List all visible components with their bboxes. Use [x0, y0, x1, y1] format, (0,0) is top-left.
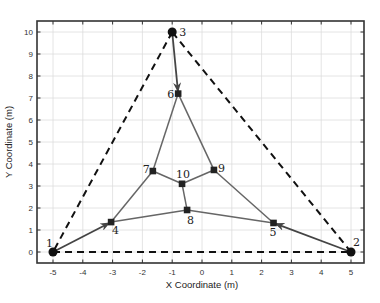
x-tick-label: 1	[230, 268, 235, 277]
x-tick-label: 5	[349, 268, 354, 277]
network-diagram: 12345678910 -5-4-3-2-1012345 01234567891…	[0, 0, 380, 303]
y-tick-labels: 012345678910	[24, 28, 33, 257]
y-tick-label: 8	[29, 72, 34, 81]
node-label-4: 4	[112, 224, 119, 237]
steiner-node-9	[211, 167, 218, 174]
x-tick-labels: -5-4-3-2-1012345	[49, 268, 353, 277]
steiner-node-8	[184, 207, 191, 214]
node-label-10: 10	[176, 168, 190, 181]
y-tick-label: 1	[29, 226, 34, 235]
terminal-node-3	[168, 28, 177, 37]
x-tick-label: -2	[139, 268, 147, 277]
node-label-8: 8	[187, 214, 194, 227]
x-tick-label: -5	[49, 268, 57, 277]
y-tick-label: 2	[29, 204, 34, 213]
x-tick-label: -4	[79, 268, 87, 277]
node-label-7: 7	[143, 163, 150, 176]
y-tick-label: 5	[29, 138, 34, 147]
steiner-node-10	[179, 181, 186, 188]
y-axis-label: Y Coordinate (m)	[3, 106, 14, 178]
node-label-6: 6	[167, 88, 174, 101]
y-tick-label: 9	[29, 50, 34, 59]
steiner-node-7	[150, 168, 157, 175]
node-label-9: 9	[218, 162, 225, 175]
y-tick-label: 0	[29, 248, 34, 257]
x-tick-label: 3	[289, 268, 294, 277]
node-label-3: 3	[179, 26, 186, 39]
x-tick-label: -3	[109, 268, 117, 277]
x-tick-label: 0	[200, 268, 205, 277]
x-axis-label: X Coordinate (m)	[166, 279, 238, 290]
y-tick-label: 6	[29, 116, 34, 125]
steiner-node-6	[175, 90, 182, 97]
node-label-1: 1	[46, 237, 53, 250]
y-tick-label: 3	[29, 182, 34, 191]
node-label-2: 2	[353, 236, 360, 249]
node-label-5: 5	[270, 226, 277, 239]
y-tick-label: 10	[24, 28, 33, 37]
y-tick-label: 7	[29, 94, 34, 103]
x-tick-label: -1	[169, 268, 177, 277]
x-tick-label: 2	[259, 268, 264, 277]
x-tick-label: 4	[319, 268, 324, 277]
y-tick-label: 4	[29, 160, 34, 169]
